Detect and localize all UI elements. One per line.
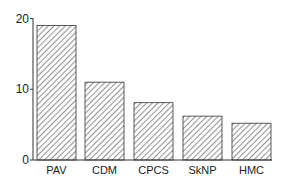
bar-sknp (183, 116, 222, 160)
x-label-sknp: SkNP (188, 164, 216, 176)
bar-pav (37, 26, 76, 160)
bar-cdm (85, 82, 124, 160)
y-tick-label: 20 (16, 12, 30, 26)
x-label-cpcs: CPCS (138, 164, 169, 176)
x-label-hmc: HMC (239, 164, 264, 176)
y-tick-label: 10 (16, 82, 30, 96)
bar-hmc (232, 123, 271, 160)
bar-chart: 01020 PAVCDMCPCSSkNPHMC (0, 0, 285, 182)
x-label-cdm: CDM (92, 164, 117, 176)
x-labels: PAVCDMCPCSSkNPHMC (46, 164, 264, 176)
y-tick-label: 0 (22, 153, 29, 167)
bars (37, 26, 271, 160)
x-label-pav: PAV (46, 164, 67, 176)
y-ticks: 01020 (16, 12, 33, 168)
bar-cpcs (134, 103, 173, 160)
